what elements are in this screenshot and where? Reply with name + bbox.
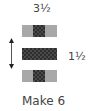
dark-segment	[33, 25, 45, 37]
middle-strip	[22, 48, 57, 60]
caption: Make 6	[22, 95, 65, 108]
top-strip	[22, 25, 57, 37]
height-label: 1½	[68, 51, 86, 63]
light-segment	[22, 70, 33, 82]
width-label: 3½	[33, 3, 51, 15]
light-segment	[45, 25, 57, 37]
light-segment	[22, 25, 33, 37]
bottom-strip	[22, 70, 57, 82]
light-segment	[45, 70, 57, 82]
dark-segment	[33, 70, 45, 82]
double-arrow-icon	[7, 38, 16, 69]
